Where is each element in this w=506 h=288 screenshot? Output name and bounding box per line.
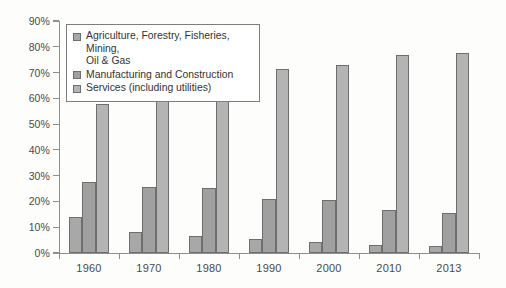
bar-1990-series-1 <box>262 199 276 253</box>
y-axis-tick-label: 10% <box>0 221 59 233</box>
legend-label-manufacturing: Manufacturing and Construction <box>86 69 252 82</box>
x-axis-tick-mark <box>299 253 300 259</box>
x-axis-tick-mark <box>479 253 480 259</box>
bar-1970-series-2 <box>156 83 170 253</box>
x-axis-tick-label: 1990 <box>239 262 299 274</box>
bar-1960-series-2 <box>96 104 110 253</box>
legend-item-manufacturing: Manufacturing and Construction <box>73 69 252 82</box>
x-axis-tick-mark <box>419 253 420 259</box>
x-axis-tick-label: 1980 <box>179 262 239 274</box>
bar-1980-series-1 <box>202 188 216 253</box>
y-axis-tick-label: 70% <box>0 67 59 79</box>
legend-label-agriculture: Agriculture, Forestry, Fisheries, Mining… <box>86 30 252 68</box>
chart-legend: Agriculture, Forestry, Fisheries, Mining… <box>66 24 260 102</box>
legend-item-agriculture: Agriculture, Forestry, Fisheries, Mining… <box>73 30 252 68</box>
bar-2010-series-1 <box>382 210 396 253</box>
bar-1990-series-0 <box>249 239 263 253</box>
x-axis-tick-label: 1970 <box>119 262 179 274</box>
bar-1960-series-0 <box>69 217 83 253</box>
x-axis-tick-mark <box>179 253 180 259</box>
bar-2000-series-2 <box>336 65 350 253</box>
legend-item-services: Services (including utilities) <box>73 82 252 95</box>
bar-2013-series-2 <box>456 53 470 253</box>
legend-swatch-icon-manufacturing <box>73 71 81 79</box>
x-axis-tick-mark <box>119 253 120 259</box>
x-axis-tick-mark <box>239 253 240 259</box>
y-axis-tick-label: 0% <box>0 247 59 259</box>
y-axis-tick-label: 40% <box>0 144 59 156</box>
bar-1980-series-0 <box>189 236 203 253</box>
bar-1990-series-2 <box>276 69 290 253</box>
x-axis-tick-label: 2013 <box>419 262 479 274</box>
bar-2000-series-1 <box>322 200 336 253</box>
bar-1970-series-0 <box>129 232 143 253</box>
x-axis-tick-label: 2000 <box>299 262 359 274</box>
legend-label-services: Services (including utilities) <box>86 82 252 95</box>
bar-1980-series-2 <box>216 80 230 253</box>
y-axis-tick-label: 50% <box>0 118 59 130</box>
bar-2010-series-2 <box>396 55 410 253</box>
x-axis-tick-mark <box>359 253 360 259</box>
legend-swatch-icon-services <box>73 85 81 93</box>
bar-2010-series-0 <box>369 245 383 253</box>
legend-swatch-icon-agriculture <box>73 33 81 41</box>
y-axis-tick-label: 80% <box>0 41 59 53</box>
bar-2013-series-1 <box>442 213 456 253</box>
y-axis-tick-label: 60% <box>0 92 59 104</box>
bar-1960-series-1 <box>82 182 96 253</box>
y-axis-tick-label: 30% <box>0 170 59 182</box>
x-axis-tick-label: 1960 <box>59 262 119 274</box>
x-axis-tick-mark <box>59 253 60 259</box>
bar-2013-series-0 <box>429 246 443 253</box>
bar-2000-series-0 <box>309 242 323 253</box>
y-axis-tick-label: 20% <box>0 195 59 207</box>
x-axis-tick-label: 2010 <box>359 262 419 274</box>
bar-1970-series-1 <box>142 187 156 253</box>
bar-chart-figure: 0%10%20%30%40%50%60%70%80%90% 1960197019… <box>0 0 506 288</box>
y-axis-tick-label: 90% <box>0 15 59 27</box>
